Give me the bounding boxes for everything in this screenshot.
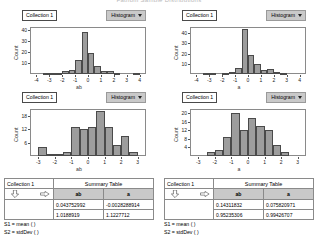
x-tick-label: -3 — [204, 77, 214, 83]
arrow-right-icon[interactable] — [40, 191, 50, 197]
table-axis-controls[interactable] — [5, 189, 54, 200]
table-cell[interactable]: 0.075820971 — [264, 200, 314, 210]
histogram-bar[interactable] — [113, 145, 121, 156]
y-tick-label: 16 — [176, 119, 187, 125]
chevron-down-icon — [138, 96, 142, 99]
formula-line[interactable]: S1 = mean ( ) — [164, 221, 314, 228]
x-tick-mark — [38, 157, 39, 159]
y-tick-mark — [28, 41, 30, 42]
plot-type-dropdown-bottom-right[interactable]: Histogram — [266, 92, 306, 103]
formula-line[interactable]: S1 = mean ( ) — [4, 221, 154, 228]
x-tick-mark — [36, 75, 37, 77]
table-row: Collection 1Summary Table — [165, 179, 314, 189]
table-cell[interactable]: 0.043752992 — [54, 200, 104, 210]
histogram-bar[interactable] — [96, 111, 104, 156]
table-cell[interactable]: 0.95235306 — [214, 210, 264, 220]
plot-type-label: Histogram — [271, 94, 295, 100]
table-cell[interactable]: 1.1227712 — [104, 210, 154, 220]
histogram-bar[interactable] — [215, 150, 223, 156]
x-tick-label: -1 — [70, 77, 80, 83]
x-tick-label: -2 — [57, 77, 67, 83]
x-tick-label: -4 — [191, 77, 201, 83]
histogram-bar[interactable] — [114, 73, 120, 75]
summary-table-summary-right[interactable]: Collection 1Summary Tableaba0.143118320.… — [164, 178, 314, 220]
y-tick-label: 18 — [16, 113, 27, 119]
histogram-bar[interactable] — [133, 73, 139, 75]
histogram-bar[interactable] — [47, 154, 55, 156]
plot-type-dropdown-top-left[interactable]: Histogram — [106, 10, 146, 21]
y-tick-label: 10 — [176, 61, 187, 67]
histogram-bar[interactable] — [38, 147, 46, 156]
histogram-bar[interactable] — [248, 118, 256, 156]
histogram-bar[interactable] — [55, 154, 63, 156]
collection-label-top-right[interactable]: Collection 1 — [182, 10, 217, 21]
y-tick-mark — [188, 43, 190, 44]
histogram-bar[interactable] — [121, 136, 129, 156]
histogram-bar[interactable] — [63, 152, 71, 156]
histogram-bar[interactable] — [209, 73, 215, 75]
x-tick-label: 0 — [83, 77, 93, 83]
histogram-bar[interactable] — [273, 145, 281, 156]
x-tick-mark — [261, 75, 262, 77]
plot-type-dropdown-top-right[interactable]: Histogram — [266, 10, 306, 21]
summary-table-summary-left[interactable]: Collection 1Summary Tableaba0.043752992-… — [4, 178, 154, 220]
formula-line[interactable]: S2 = stdDev ( ) — [4, 229, 154, 236]
arrow-down-icon[interactable] — [171, 190, 179, 198]
histogram-bar[interactable] — [105, 127, 113, 156]
histogram-bar[interactable] — [281, 152, 289, 156]
table-cell[interactable]: -0.0028288914 — [104, 200, 154, 210]
histogram-bar[interactable] — [80, 129, 88, 156]
collection-label-top-left[interactable]: Collection 1 — [22, 10, 57, 21]
histogram-bar[interactable] — [265, 130, 273, 156]
column-header[interactable]: ab — [54, 189, 104, 200]
x-tick-mark — [88, 157, 89, 159]
arrow-down-icon[interactable] — [11, 190, 19, 198]
table-cell[interactable]: 0.14311832 — [214, 200, 264, 210]
table-row-header-cell[interactable] — [5, 200, 54, 220]
column-header[interactable]: a — [104, 189, 154, 200]
plot-type-dropdown-bottom-left[interactable]: Histogram — [106, 92, 146, 103]
x-tick-mark — [49, 75, 50, 77]
collection-label-bottom-right[interactable]: Collection 1 — [182, 92, 217, 103]
histogram-panel-top-right: Collection 1Histogram10203040Count-4-3-2… — [164, 10, 314, 88]
table-cell[interactable]: 0.99426707 — [264, 210, 314, 220]
table-row-header-cell[interactable] — [165, 200, 214, 220]
histogram-bar[interactable] — [207, 152, 215, 156]
collection-label-summary-left[interactable]: Collection 1 — [5, 179, 54, 189]
histogram-bar[interactable] — [280, 73, 286, 75]
x-tick-mark — [222, 75, 223, 77]
x-tick-label: 0 — [83, 159, 93, 165]
x-tick-mark — [248, 75, 249, 77]
collection-label-summary-right[interactable]: Collection 1 — [165, 179, 214, 189]
table-cell[interactable]: 1.0188919 — [54, 210, 104, 220]
histogram-bar[interactable] — [88, 127, 96, 156]
x-tick-label: -1 — [66, 159, 76, 165]
histogram-bar[interactable] — [71, 127, 79, 156]
x-tick-label: 3 — [293, 159, 303, 165]
plot-type-label: Histogram — [111, 12, 135, 18]
x-tick-mark — [62, 75, 63, 77]
x-tick-label: -4 — [31, 77, 41, 83]
x-tick-mark — [281, 157, 282, 159]
histogram-bar[interactable] — [256, 126, 264, 156]
column-header[interactable]: a — [264, 189, 314, 200]
summary-table-panel-summary-right: Collection 1Summary Tableaba0.143118320.… — [164, 178, 314, 236]
histogram-bar[interactable] — [223, 137, 231, 156]
x-tick-label: -2 — [217, 77, 227, 83]
column-header[interactable]: ab — [214, 189, 264, 200]
x-tick-mark — [71, 157, 72, 159]
histogram-bar[interactable] — [231, 113, 239, 156]
table-row: Collection 1Summary Table — [5, 179, 154, 189]
x-tick-mark — [121, 157, 122, 159]
arrow-right-icon[interactable] — [200, 191, 210, 197]
formula-line[interactable]: S2 = stdDev ( ) — [164, 229, 314, 236]
histogram-bar[interactable] — [240, 130, 248, 156]
x-tick-mark — [198, 157, 199, 159]
histogram-bar[interactable] — [129, 152, 137, 156]
plot-type-label: Histogram — [271, 12, 295, 18]
x-tick-label: 2 — [116, 159, 126, 165]
x-tick-label: 3 — [282, 77, 292, 83]
collection-label-bottom-left[interactable]: Collection 1 — [22, 92, 57, 103]
chevron-down-icon — [298, 96, 302, 99]
table-axis-controls[interactable] — [165, 189, 214, 200]
